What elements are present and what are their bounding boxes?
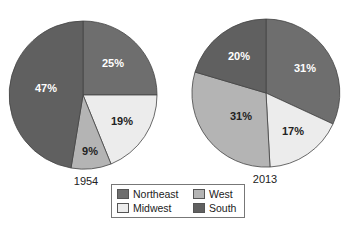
year-label: 2013: [253, 173, 277, 185]
slice-label: 17%: [282, 125, 304, 137]
pie-2013: [192, 19, 340, 167]
slice-label: 31%: [294, 62, 316, 74]
slice-label: 47%: [35, 82, 57, 94]
year-label: 1954: [74, 175, 98, 187]
legend: Northeast West Midwest South: [111, 184, 245, 218]
slice-label: 9%: [82, 145, 98, 157]
legend-item: South: [193, 202, 236, 214]
legend-item: Midwest: [117, 202, 172, 214]
legend-item: Northeast: [117, 188, 179, 200]
legend-item: West: [193, 188, 233, 200]
slice-label: 25%: [102, 57, 124, 69]
slice-label: 20%: [228, 50, 250, 62]
slice-label: 31%: [230, 110, 252, 122]
slice-label: 19%: [111, 115, 133, 127]
